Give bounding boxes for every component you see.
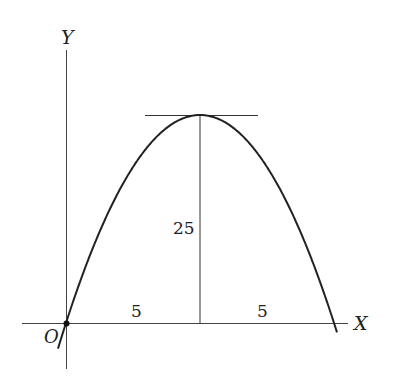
left-half-width-label: 5 [131, 301, 142, 321]
origin-point [64, 321, 70, 327]
right-half-width-label: 5 [257, 301, 268, 321]
height-label: 25 [173, 218, 195, 238]
x-axis-label: X [352, 312, 369, 334]
origin-label: O [44, 326, 59, 347]
y-axis-label: Y [61, 26, 76, 48]
parabola-diagram: Y X O 5 5 25 [0, 0, 396, 385]
parabola-curve [58, 115, 337, 349]
